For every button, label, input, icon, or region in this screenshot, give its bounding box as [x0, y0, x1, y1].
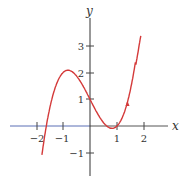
x-tick-label: 2: [141, 133, 147, 144]
x-tick-label: −1: [55, 133, 70, 144]
y-tick-label: 1: [78, 94, 84, 105]
x-axis-label: x: [172, 119, 179, 133]
y-tick-label: 2: [78, 68, 84, 79]
y-axis-label: y: [85, 4, 93, 18]
y-tick-label: 3: [78, 41, 84, 52]
x-tick-label: −2: [30, 133, 45, 144]
x-tick-label: 1: [114, 133, 120, 144]
cubic-function-graph: −2 −1 1 2 3 2 1 −1 x y: [0, 0, 184, 176]
curve-arrowhead-icon: [126, 101, 130, 106]
y-tick-label: −1: [69, 148, 84, 159]
